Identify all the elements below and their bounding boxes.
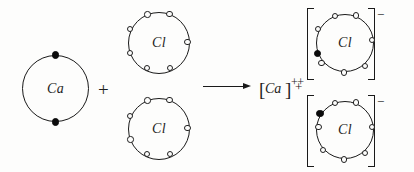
chloride-top-electron-4 bbox=[318, 60, 324, 66]
chloride-bottom-electron-3 bbox=[315, 124, 321, 130]
calcium-shell-circle: Ca bbox=[22, 55, 89, 122]
chlorine-bottom-electron-4 bbox=[127, 136, 133, 142]
chloride-bottom-charge-label: − bbox=[377, 95, 384, 108]
reactant-plus-operator: + bbox=[98, 80, 109, 99]
chloride-bottom-transferred-electron bbox=[316, 110, 323, 117]
chloride-top-electron-2 bbox=[332, 13, 338, 19]
product-plus-operator: + bbox=[295, 80, 302, 93]
chloride-bottom-electron-2 bbox=[332, 100, 338, 106]
chlorine-top-electron-2 bbox=[144, 11, 150, 17]
chlorine-bottom-symbol-label: Cl bbox=[129, 99, 189, 159]
lewis-structure-diagram: Ca + Cl Cl [ Ca ] ++ + − Cl bbox=[0, 0, 414, 172]
chloride-top-charge-label: − bbox=[377, 8, 384, 21]
calcium-electron-bottom bbox=[52, 118, 59, 125]
calcium-symbol-label: Ca bbox=[23, 56, 88, 121]
chlorine-bottom-electron-2 bbox=[144, 97, 150, 103]
chloride-top-electron-1 bbox=[353, 12, 359, 18]
calcium-electron-top bbox=[52, 51, 59, 58]
chloride-top-bracket-left bbox=[307, 8, 314, 80]
chlorine-top-shell-circle: Cl bbox=[128, 12, 190, 74]
chloride-bottom-bracket-left bbox=[307, 95, 314, 167]
chloride-top-electron-5 bbox=[341, 69, 347, 75]
right-arrow-icon-head bbox=[243, 83, 251, 89]
chloride-top-transferred-electron bbox=[314, 50, 321, 57]
chlorine-bottom-electron-7 bbox=[184, 125, 190, 131]
chlorine-top-electron-7 bbox=[184, 39, 190, 45]
right-arrow-icon-shaft bbox=[203, 86, 245, 87]
calcium-ion-symbol-label: Ca bbox=[265, 82, 281, 96]
chlorine-top-symbol-label: Cl bbox=[129, 13, 189, 73]
chlorine-bottom-shell-circle: Cl bbox=[128, 98, 190, 160]
chloride-bottom-electron-5 bbox=[341, 156, 347, 162]
chloride-bottom-electron-1 bbox=[353, 99, 359, 105]
